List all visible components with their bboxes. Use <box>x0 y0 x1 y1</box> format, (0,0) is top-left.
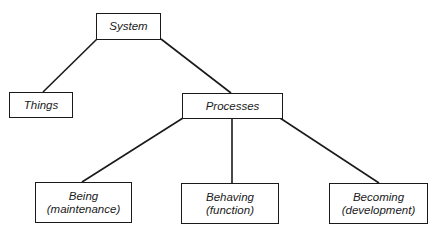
node-being-label: Being <box>69 190 98 203</box>
node-behaving-label: Behaving <box>206 191 254 204</box>
system-hierarchy-diagram: System Things Processes Being (maintenan… <box>0 0 441 237</box>
edge-system-things <box>43 39 97 92</box>
node-being-sublabel: (maintenance) <box>47 203 121 216</box>
node-things-label: Things <box>24 99 59 112</box>
edge-processes-being <box>82 118 183 182</box>
node-processes: Processes <box>182 93 283 119</box>
node-behaving: Behaving (function) <box>181 183 279 224</box>
node-system-label: System <box>109 20 147 33</box>
node-becoming-sublabel: (development) <box>342 204 416 217</box>
node-processes-label: Processes <box>206 100 260 113</box>
edge-system-processes <box>161 39 231 93</box>
node-system: System <box>96 13 161 40</box>
node-things: Things <box>9 92 73 118</box>
node-behaving-sublabel: (function) <box>206 204 254 217</box>
node-becoming-label: Becoming <box>353 191 404 204</box>
node-being: Being (maintenance) <box>35 182 132 223</box>
edge-processes-becoming <box>280 118 379 183</box>
node-becoming: Becoming (development) <box>329 183 428 224</box>
